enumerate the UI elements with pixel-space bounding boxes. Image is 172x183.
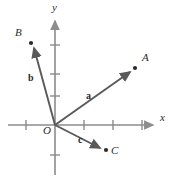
x-axis-label: x — [160, 112, 165, 123]
x-axis-group — [8, 120, 153, 130]
vector-a-group — [55, 66, 137, 125]
vector-a-label: a — [86, 91, 91, 101]
point-a-dot — [133, 66, 137, 70]
point-c-dot — [104, 148, 108, 152]
vector-diagram-figure: x y O A B C a b c — [0, 0, 172, 183]
point-c-label: C — [111, 145, 118, 156]
point-b-dot — [29, 41, 33, 45]
origin-label: O — [43, 125, 51, 136]
vector-b-label: b — [28, 73, 34, 83]
point-b-label: B — [15, 27, 22, 38]
vector-c-label: c — [78, 135, 82, 145]
y-axis-group — [50, 21, 60, 175]
vector-b-arrow — [34, 48, 55, 125]
point-a-label: A — [142, 52, 149, 63]
vector-a-arrow — [55, 72, 130, 125]
y-axis-label: y — [52, 2, 57, 13]
